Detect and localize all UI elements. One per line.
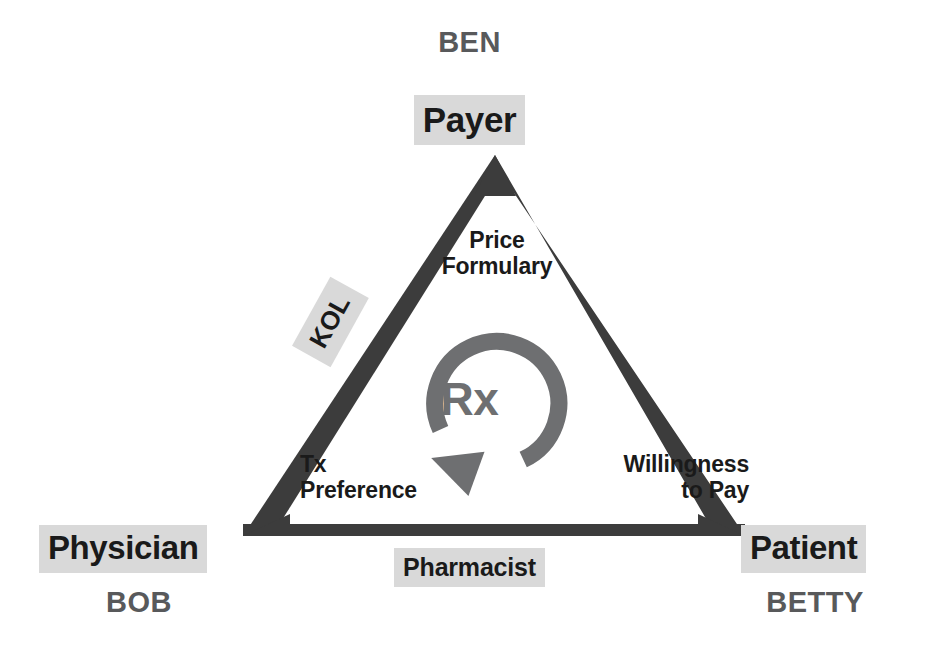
center-label-rx: Rx xyxy=(0,372,939,426)
edge-note-willingness-to-pay: Willingness to Pay xyxy=(549,452,749,504)
edge-note-willingness-to-pay-line1: Willingness xyxy=(549,452,749,478)
edge-patient-to-physician xyxy=(243,524,745,536)
person-name-ben: BEN xyxy=(0,26,939,58)
edge-note-willingness-to-pay-line2: to Pay xyxy=(549,478,749,504)
edge-note-price-formulary-line2: Formulary xyxy=(397,254,597,280)
person-name-betty: BETTY xyxy=(715,586,915,618)
edge-note-price-formulary: Price Formulary xyxy=(397,228,597,280)
arrowhead-top xyxy=(474,155,516,196)
person-name-bob: BOB xyxy=(39,586,239,618)
vertex-label-payer-wrap: Payer xyxy=(0,95,939,145)
edge-label-pharmacist[interactable]: Pharmacist xyxy=(394,548,545,587)
edge-note-tx-preference: Tx Preference xyxy=(300,452,490,504)
edge-label-pharmacist-wrap: Pharmacist xyxy=(0,548,939,587)
vertex-label-payer[interactable]: Payer xyxy=(414,95,525,145)
edge-note-price-formulary-line1: Price xyxy=(397,228,597,254)
diagram-canvas: BEN Payer Physician BOB Patient BETTY KO… xyxy=(0,0,939,669)
edge-note-tx-preference-line1: Tx xyxy=(300,452,490,478)
edge-note-tx-preference-line2: Preference xyxy=(300,478,490,504)
